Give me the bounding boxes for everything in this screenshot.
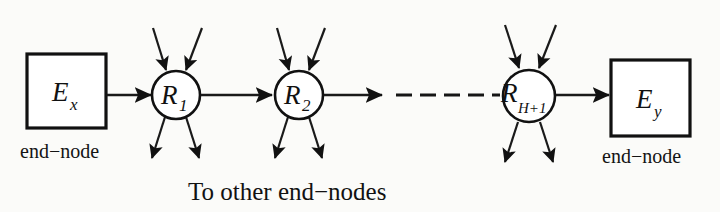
- rh1-label-sub: H+1: [517, 100, 546, 116]
- node-rh1: R H+1: [500, 25, 556, 162]
- rh1-outbound-spoke-right: [540, 122, 553, 162]
- r1-label-sub: 1: [179, 96, 188, 115]
- rh1-outbound-spoke-left: [505, 122, 518, 162]
- network-path-diagram: E x end−node R 1 R 2: [0, 0, 720, 212]
- rh1-inbound-spoke-left: [505, 25, 519, 68]
- r1-outbound-spoke-right: [186, 117, 199, 158]
- r2-outbound-spoke-left: [275, 117, 288, 158]
- r2-inbound-spoke-left: [277, 28, 289, 70]
- r2-inbound-spoke-right: [309, 28, 325, 70]
- ey-label-sub: y: [652, 102, 662, 121]
- r2-outbound-spoke-right: [309, 117, 322, 158]
- ey-end-node-caption: end−node: [602, 145, 681, 167]
- bottom-caption: To other end−nodes: [188, 178, 386, 205]
- figure-canvas: E x end−node R 1 R 2: [0, 0, 720, 212]
- r1-outbound-spoke-left: [152, 117, 165, 158]
- node-ey: E y: [611, 60, 690, 136]
- r2-label-sub: 2: [302, 96, 311, 115]
- ex-label-main: E: [51, 77, 69, 107]
- node-ex: E x: [27, 54, 106, 128]
- ey-label-main: E: [635, 84, 653, 114]
- r1-inbound-spoke-right: [186, 28, 202, 70]
- ex-end-node-caption: end−node: [20, 140, 99, 162]
- node-r2: R 2: [275, 28, 325, 158]
- rh1-inbound-spoke-right: [539, 25, 556, 68]
- rh1-label-main: R: [500, 78, 518, 108]
- r2-label-main: R: [283, 80, 301, 110]
- ex-label-sub: x: [69, 95, 78, 114]
- r1-inbound-spoke-left: [153, 28, 166, 70]
- r1-label-main: R: [160, 80, 178, 110]
- node-r1: R 1: [152, 28, 202, 158]
